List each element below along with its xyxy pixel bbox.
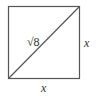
diagonal-line [9,7,80,79]
square-diagram: √8 x x [0,0,96,99]
side-bottom-label: x [40,81,47,95]
diagonal-label: √8 [27,35,40,49]
side-right-label: x [83,36,90,50]
